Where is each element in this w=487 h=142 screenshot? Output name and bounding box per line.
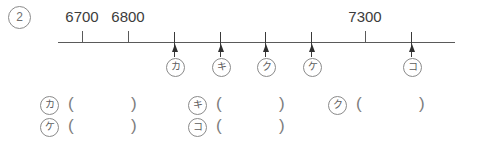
marker-kana-badge: ク	[257, 58, 276, 77]
answer-input-blank[interactable]	[364, 96, 418, 114]
arrow-up-icon	[263, 44, 269, 52]
marker-kana-badge: コ	[403, 58, 422, 77]
arrow-up-icon	[409, 44, 415, 52]
answer-kana-badge: ケ	[40, 118, 59, 137]
scale-label: 6800	[111, 8, 144, 25]
problem-number-badge: 2	[8, 6, 31, 29]
paren-open: (	[216, 94, 222, 114]
marker-kana-badge: キ	[212, 58, 231, 77]
scale-label: 6700	[65, 8, 98, 25]
scale-tick	[365, 31, 366, 42]
paren-close: )	[131, 94, 137, 114]
answer-input-blank[interactable]	[76, 96, 130, 114]
number-line-axis	[58, 42, 455, 43]
paren-open: (	[68, 116, 74, 136]
paren-close: )	[131, 116, 137, 136]
answer-kana-badge: ク	[328, 96, 347, 115]
paren-close: )	[279, 94, 285, 114]
paren-open: (	[216, 116, 222, 136]
answer-kana-badge: コ	[188, 118, 207, 137]
scale-tick	[82, 31, 83, 42]
paren-open: (	[356, 94, 362, 114]
arrow-up-icon	[218, 44, 224, 52]
arrow-up-icon	[172, 44, 178, 52]
scale-label: 7300	[348, 8, 381, 25]
marker-kana-badge: ケ	[303, 58, 322, 77]
answer-input-blank[interactable]	[224, 96, 278, 114]
paren-close: )	[279, 116, 285, 136]
answer-input-blank[interactable]	[224, 118, 278, 136]
paren-close: )	[419, 94, 425, 114]
scale-tick	[128, 31, 129, 42]
worksheet-problem: 2 670068007300 カキクケコ カ()キ()ク()ケ()コ()	[0, 0, 487, 142]
arrow-up-icon	[309, 44, 315, 52]
paren-open: (	[68, 94, 74, 114]
answer-kana-badge: カ	[40, 96, 59, 115]
answer-input-blank[interactable]	[76, 118, 130, 136]
marker-kana-badge: カ	[166, 58, 185, 77]
answer-kana-badge: キ	[188, 96, 207, 115]
